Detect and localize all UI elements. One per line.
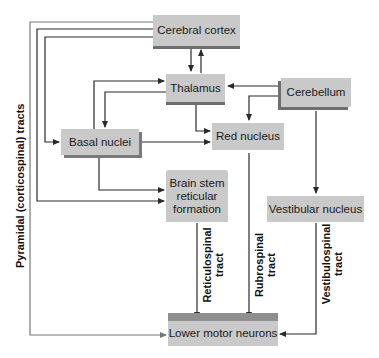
pyramidal-tract-arrow	[30, 22, 166, 335]
vestibulospinal-text-2: tract	[332, 223, 344, 305]
cerebellum-node: Cerebellum	[281, 78, 351, 107]
basal-nuclei-label: Basal nuclei	[69, 136, 131, 149]
basal-nuclei-node: Basal nuclei	[61, 129, 139, 155]
lower-motor-neurons-label: Lower motor neurons	[169, 327, 278, 340]
vestibulospinal-tract-arrow	[280, 223, 316, 334]
vestibular-nucleus-label: Vestibular nucleus	[269, 203, 362, 216]
red-nucleus-node: Red nucleus	[212, 123, 284, 150]
rubrospinal-text-2: tract	[265, 230, 277, 300]
pyramidal-tract-label: Pyramidal (corticospinal) tracts	[14, 104, 26, 268]
cerebral-cortex-label: Cerebral cortex	[157, 24, 236, 37]
thalamus-to-basal-arrow	[105, 92, 166, 127]
rubrospinal-tract-label: Rubrospinal tract	[253, 230, 277, 300]
basal-to-brainstem-arrow	[99, 156, 164, 190]
rubrospinal-text-1: Rubrospinal	[253, 230, 265, 300]
reticulospinal-text-2: tract	[213, 225, 225, 305]
vestibulospinal-text-1: Vestibulospinal	[320, 223, 332, 305]
cerebral-cortex-node: Cerebral cortex	[153, 15, 240, 46]
thalamus-node: Thalamus	[166, 74, 225, 102]
cerebellum-label: Cerebellum	[287, 86, 346, 99]
brain-stem-label-line3: formation	[173, 203, 221, 216]
lower-motor-neurons-node: Lower motor neurons	[168, 313, 278, 346]
brain-stem-label-line1: Brain stem	[170, 177, 225, 190]
reticulospinal-tract-label: Reticulospinal tract	[201, 225, 225, 305]
pyramidal-tract-text: Pyramidal (corticospinal) tracts	[14, 104, 26, 268]
thalamus-to-rednucleus-arrow	[196, 103, 210, 131]
vestibular-nucleus-node: Vestibular nucleus	[267, 196, 364, 222]
brain-stem-label-line2: reticular	[177, 190, 218, 203]
reticulospinal-text-1: Reticulospinal	[201, 225, 213, 305]
thalamus-label: Thalamus	[170, 82, 221, 95]
cortex-to-basal-arrow	[45, 37, 154, 142]
red-nucleus-label: Red nucleus	[216, 130, 280, 143]
brain-stem-reticular-formation-node: Brain stem reticular formation	[166, 170, 228, 222]
cortex-to-brainstem-arrow	[37, 29, 164, 201]
vestibulospinal-tract-label: Vestibulospinal tract	[320, 223, 344, 305]
cerebellum-to-rednucleus-arrow	[249, 96, 278, 120]
